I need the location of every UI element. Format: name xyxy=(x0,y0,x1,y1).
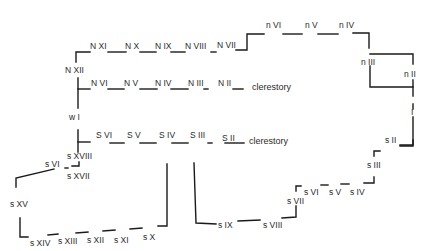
label-s-xviii: s XVIII xyxy=(67,151,92,161)
label-n-vii: N VII xyxy=(217,40,236,50)
label-s-xv: s XV xyxy=(10,199,28,209)
south-choir-wall xyxy=(194,140,413,224)
label-n-vi-choir: n VI xyxy=(266,20,281,30)
label-s-iv-choir: s IV xyxy=(350,187,365,197)
label-s-vii: s VII xyxy=(287,196,304,206)
label-n-vi: N VI xyxy=(91,78,108,88)
label-n-ii-choir: n II xyxy=(404,69,416,79)
label-n-iii: N III xyxy=(188,78,204,88)
label-s-vi-chapel: s VI xyxy=(45,159,60,169)
label-s-v-clerestory: S V xyxy=(127,130,141,140)
label-s-x: s X xyxy=(143,232,156,242)
label-n-xii: N XII xyxy=(65,65,84,75)
label-n-x: N X xyxy=(125,41,140,51)
label-n-ii: N II xyxy=(218,78,231,88)
south-chapel-wall xyxy=(16,162,167,237)
north-east-wall xyxy=(370,54,413,145)
label-n-xi: N XI xyxy=(90,41,107,51)
label-s-xi: s XI xyxy=(114,235,129,245)
label-n-iv-choir: n IV xyxy=(339,20,354,30)
label-s-v-choir: s V xyxy=(329,187,342,197)
label-n-iii-choir: n III xyxy=(361,57,375,67)
label-s-ix: s IX xyxy=(218,220,233,230)
label-s-xiii: s XIII xyxy=(58,236,77,246)
label-s-vi-choir: s VI xyxy=(304,187,319,197)
label-s-xii: s XII xyxy=(87,235,104,245)
label-n-ix: N IX xyxy=(155,41,172,51)
label-n-v-choir: n V xyxy=(305,20,318,30)
south-clerestory-caption: clerestory xyxy=(249,136,289,146)
label-n-v: N V xyxy=(124,78,139,88)
north-clerestory-caption: clerestory xyxy=(252,82,292,92)
label-east-i: I xyxy=(411,107,413,117)
label-s-xvii: s XVII xyxy=(67,171,90,181)
label-s-vi-clerestory: S VI xyxy=(96,130,112,140)
label-s-iii-choir: s III xyxy=(367,160,381,170)
label-s-viii: s VIII xyxy=(263,220,282,230)
label-west-i: w I xyxy=(68,112,80,122)
label-s-ii-choir: s II xyxy=(385,135,396,145)
label-s-xiv: s XIV xyxy=(30,238,51,248)
window-plan-diagram: N XII N XI N X N IX N VIII N VII n VI n … xyxy=(0,0,425,251)
label-n-iv: N IV xyxy=(155,78,172,88)
label-n-viii: N VIII xyxy=(185,41,206,51)
label-s-iii-clerestory: S III xyxy=(190,130,205,140)
label-s-iv-clerestory: S IV xyxy=(159,130,175,140)
label-s-ii-clerestory: S II xyxy=(222,133,235,143)
